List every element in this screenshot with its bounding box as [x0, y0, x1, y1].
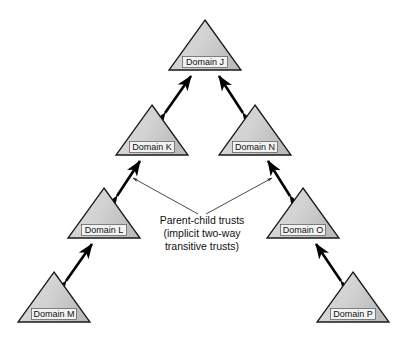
trust-link-m-l: [66, 244, 92, 281]
double-arrow-icon: [219, 76, 243, 113]
parent-child-trusts-note: Parent-child trusts(implicit two-waytran…: [160, 214, 245, 252]
annotation-line-1: Parent-child trusts: [160, 214, 245, 226]
trust-link-n-j: [219, 76, 243, 113]
domain-label-text: Domain P: [333, 309, 373, 319]
annotation-line-2: (implicit two-way: [163, 227, 241, 239]
domain-label-text: Domain M: [33, 309, 74, 319]
domain-node-n[interactable]: Domain N: [219, 105, 291, 155]
double-arrow-icon: [66, 244, 92, 281]
annotation-line-3: transitive trusts): [165, 240, 239, 252]
double-arrow-icon: [316, 244, 341, 281]
domain-label-text: Domain O: [283, 225, 324, 235]
domain-nodes-layer: Domain JDomain KDomain NDomain LDomain O…: [18, 20, 389, 322]
domain-label-text: Domain N: [235, 142, 275, 152]
domain-node-o[interactable]: Domain O: [267, 188, 339, 238]
annotation-leader-left-icon: [133, 178, 198, 214]
double-arrow-icon: [165, 76, 191, 113]
domain-label-text: Domain L: [85, 225, 124, 235]
domain-label-text: Domain K: [132, 142, 172, 152]
domain-node-k[interactable]: Domain K: [116, 105, 188, 155]
trust-link-p-o: [316, 244, 341, 281]
domain-node-m[interactable]: Domain M: [18, 272, 90, 322]
diagram-canvas: Domain JDomain KDomain NDomain LDomain O…: [0, 0, 404, 340]
domain-node-p[interactable]: Domain P: [317, 272, 389, 322]
annotation-text-layer: Parent-child trusts(implicit two-waytran…: [160, 214, 245, 252]
domain-node-l[interactable]: Domain L: [68, 188, 140, 238]
double-arrow-icon: [117, 161, 140, 196]
annotation-leaders-layer: [133, 178, 272, 214]
annotation-leader-right-icon: [206, 178, 272, 214]
trust-diagram: Domain JDomain KDomain NDomain LDomain O…: [0, 0, 404, 340]
trust-link-k-j: [165, 76, 191, 113]
domain-label-text: Domain J: [186, 57, 224, 67]
domain-node-j[interactable]: Domain J: [169, 20, 241, 70]
trust-link-l-k: [117, 161, 140, 196]
